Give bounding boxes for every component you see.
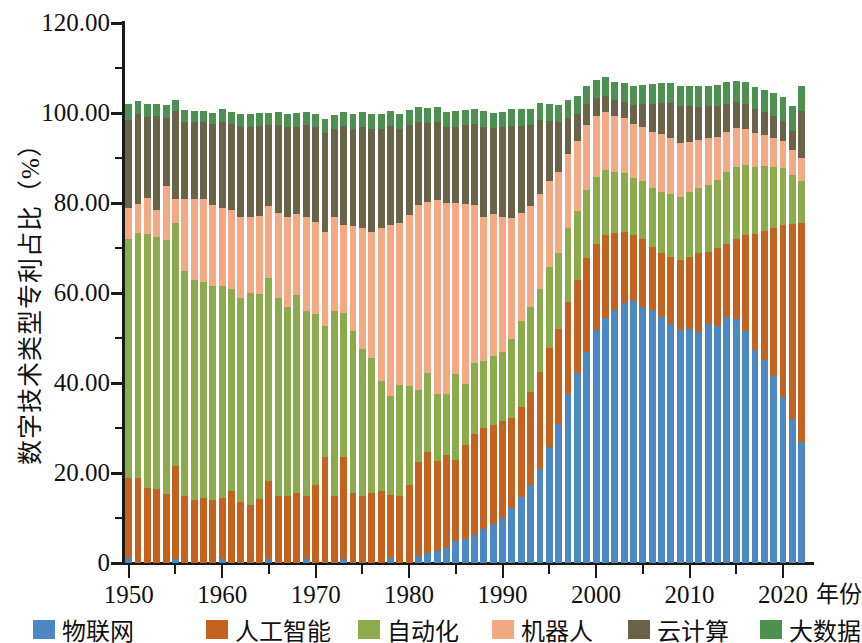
bar-stack (312, 23, 319, 563)
bar-segment-bigdata (798, 86, 805, 111)
bar-segment-iot (125, 558, 132, 563)
bar-segment-bigdata (368, 114, 375, 129)
bar-segment-bigdata (602, 77, 609, 95)
legend-item-1[interactable]: 人工智能 (206, 612, 331, 643)
bar-stack (723, 23, 730, 563)
bar-segment-ai (368, 493, 375, 563)
bar-segment-cloud (387, 126, 394, 225)
legend-item-4[interactable]: 云计算 (628, 612, 729, 643)
bar-segment-automation (714, 180, 721, 249)
bar-segment-ai (658, 253, 665, 317)
bar-segment-ai (527, 392, 534, 486)
bar-segment-bigdata (723, 82, 730, 104)
bar-segment-bigdata (443, 112, 450, 127)
bar-segment-iot (508, 508, 515, 563)
bar-segment-automation (462, 384, 469, 445)
bar-segment-robotics (228, 210, 235, 289)
bar-segment-ai (695, 253, 702, 332)
bar-segment-bigdata (209, 113, 216, 125)
y-axis-tick-label: 40.00 (54, 369, 110, 397)
bar-segment-robotics (639, 127, 646, 180)
legend-item-0[interactable]: 物联网 (33, 612, 134, 643)
bar-segment-bigdata (434, 107, 441, 122)
bar-segment-bigdata (284, 114, 291, 127)
bar-segment-bigdata (649, 84, 656, 103)
bar-stack (611, 23, 618, 563)
bar-segment-iot (714, 326, 721, 563)
bar-segment-cloud (490, 128, 497, 214)
bar-segment-automation (443, 394, 450, 455)
x-axis-minor-tick (174, 564, 176, 574)
bar-segment-cloud (378, 129, 385, 228)
bar-segment-automation (322, 326, 329, 457)
bar-segment-robotics (752, 133, 759, 167)
bar-segment-ai (537, 372, 544, 469)
bar-segment-ai (406, 485, 413, 563)
bar-stack (406, 23, 413, 563)
bar-segment-bigdata (181, 110, 188, 122)
bar-segment-iot (424, 553, 431, 563)
bar-stack (798, 23, 805, 563)
bar-stack (322, 23, 329, 563)
bar-segment-bigdata (471, 109, 478, 125)
bar-segment-ai (293, 493, 300, 563)
bar-segment-automation (480, 361, 487, 429)
x-axis-tick-label: 1950 (104, 581, 154, 609)
legend-swatch-icon (358, 620, 380, 639)
bar-stack (780, 23, 787, 563)
bar-segment-iot (219, 559, 226, 564)
bar-stack (368, 23, 375, 563)
bar-segment-cloud (462, 125, 469, 204)
bar-segment-cloud (658, 103, 665, 135)
bar-segment-robotics (490, 214, 497, 356)
legend-item-2[interactable]: 自动化 (358, 612, 459, 643)
bar-segment-cloud (219, 122, 226, 208)
x-axis-minor-tick (268, 564, 270, 574)
bar-segment-iot (686, 329, 693, 563)
bar-segment-automation (686, 192, 693, 257)
bar-stack (237, 23, 244, 563)
legend-item-5[interactable]: 大数据 (760, 612, 861, 643)
bar-segment-robotics (209, 205, 216, 286)
bar-stack (228, 23, 235, 563)
bar-segment-iot (546, 447, 553, 563)
bar-stack (172, 23, 179, 563)
x-axis-minor-tick (361, 564, 363, 574)
bar-segment-bigdata (191, 111, 198, 122)
bar-segment-ai (312, 485, 319, 563)
bar-segment-robotics (583, 125, 590, 190)
bar-stack (518, 23, 525, 563)
bar-segment-iot (518, 497, 525, 563)
bar-segment-ai (191, 500, 198, 563)
bar-segment-bigdata (406, 110, 413, 125)
legend-item-3[interactable]: 机器人 (492, 612, 593, 643)
bar-segment-automation (508, 339, 515, 418)
bar-segment-automation (125, 239, 132, 478)
bar-segment-automation (265, 278, 272, 481)
bar-segment-bigdata (200, 111, 207, 122)
bar-segment-iot (770, 376, 777, 563)
bar-segment-robotics (686, 142, 693, 192)
bar-segment-bigdata (322, 119, 329, 133)
bar-segment-iot (462, 539, 469, 563)
bar-segment-bigdata (686, 86, 693, 106)
bar-stack (424, 23, 431, 563)
bar-segment-cloud (621, 102, 628, 118)
bar-segment-automation (340, 313, 347, 457)
bar-segment-robotics (172, 199, 179, 224)
bar-segment-robotics (452, 203, 459, 374)
bar-stack (602, 23, 609, 563)
y-axis-tick-label: 60.00 (54, 279, 110, 307)
bar-stack (125, 23, 132, 563)
bar-segment-robotics (574, 141, 581, 211)
bar-segment-ai (742, 235, 749, 332)
bar-segment-iot (265, 559, 272, 563)
bar-segment-robotics (789, 150, 796, 175)
bar-segment-ai (705, 252, 712, 324)
bar-segment-cloud (125, 120, 132, 208)
chart-legend: 物联网人工智能自动化机器人云计算大数据 (0, 612, 857, 643)
bar-segment-cloud (593, 98, 600, 116)
legend-swatch-icon (206, 620, 228, 639)
bar-segment-iot (723, 317, 730, 563)
